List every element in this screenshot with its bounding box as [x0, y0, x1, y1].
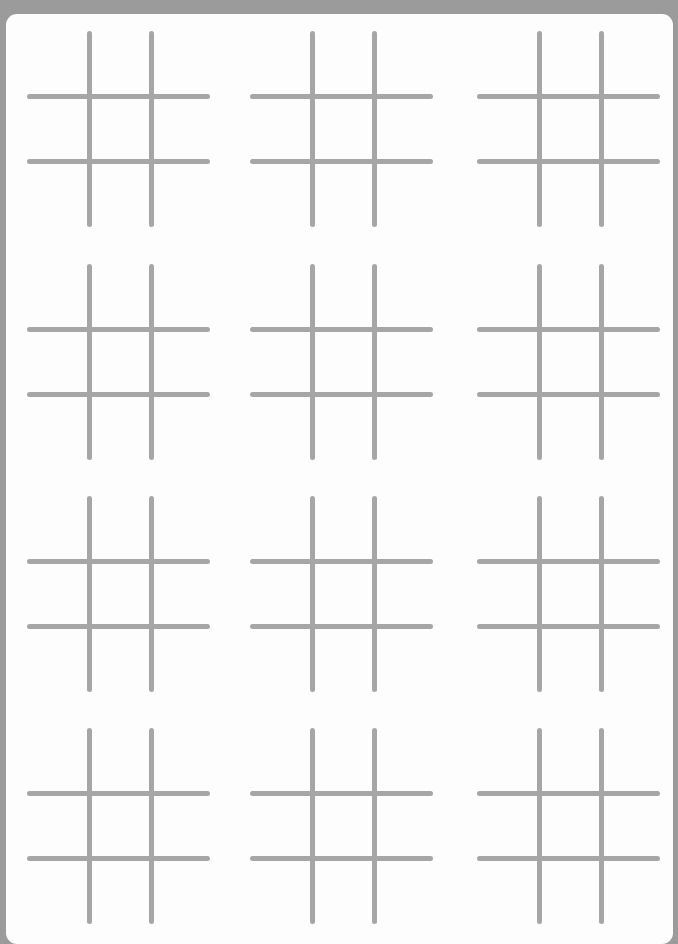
grid-line-horizontal [477, 392, 660, 397]
grid-line-horizontal [27, 327, 210, 332]
grid-line-vertical [149, 728, 154, 924]
tic-tac-toe-board [27, 728, 213, 928]
grid-line-horizontal [27, 392, 210, 397]
grid-line-vertical [537, 728, 542, 924]
grid-line-vertical [599, 728, 604, 924]
grid-line-vertical [599, 264, 604, 460]
grid-line-vertical [310, 496, 315, 692]
grid-line-horizontal [250, 94, 433, 99]
grid-line-horizontal [250, 327, 433, 332]
grid-line-horizontal [477, 624, 660, 629]
tic-tac-toe-board [27, 264, 213, 464]
grid-line-horizontal [27, 559, 210, 564]
grid-line-horizontal [27, 159, 210, 164]
grid-line-vertical [149, 31, 154, 227]
tic-tac-toe-board [477, 31, 663, 231]
grid-line-vertical [599, 496, 604, 692]
grid-line-horizontal [477, 327, 660, 332]
grid-line-horizontal [477, 159, 660, 164]
grid-line-vertical [372, 31, 377, 227]
tic-tac-toe-board [477, 264, 663, 464]
grid-line-vertical [87, 496, 92, 692]
tic-tac-toe-board [27, 31, 213, 231]
tic-tac-toe-board [250, 496, 436, 696]
grid-line-horizontal [250, 791, 433, 796]
grid-line-horizontal [250, 392, 433, 397]
tic-tac-toe-board [477, 496, 663, 696]
grid-line-vertical [149, 496, 154, 692]
tic-tac-toe-board [477, 728, 663, 928]
grid-line-vertical [372, 728, 377, 924]
tic-tac-toe-board [250, 31, 436, 231]
grid-line-vertical [310, 31, 315, 227]
grid-line-horizontal [27, 791, 210, 796]
grid-line-vertical [87, 31, 92, 227]
grid-line-vertical [372, 264, 377, 460]
grid-line-vertical [87, 728, 92, 924]
grid-line-horizontal [250, 624, 433, 629]
tic-tac-toe-board [27, 496, 213, 696]
tic-tac-toe-board [250, 728, 436, 928]
grid-line-vertical [310, 264, 315, 460]
grid-line-horizontal [250, 159, 433, 164]
grid-line-vertical [372, 496, 377, 692]
grid-line-horizontal [27, 94, 210, 99]
grid-line-horizontal [27, 856, 210, 861]
tic-tac-toe-board [250, 264, 436, 464]
grid-line-horizontal [477, 791, 660, 796]
grid-line-horizontal [477, 559, 660, 564]
grid-line-vertical [537, 31, 542, 227]
grid-line-vertical [149, 264, 154, 460]
grid-line-vertical [310, 728, 315, 924]
grid-line-horizontal [250, 559, 433, 564]
grid-line-horizontal [250, 856, 433, 861]
grid-line-horizontal [477, 94, 660, 99]
grid-line-horizontal [27, 624, 210, 629]
tic-tac-toe-sheet [6, 14, 673, 944]
grid-line-vertical [599, 31, 604, 227]
grid-line-vertical [537, 496, 542, 692]
grid-line-vertical [537, 264, 542, 460]
grid-line-vertical [87, 264, 92, 460]
grid-line-horizontal [477, 856, 660, 861]
